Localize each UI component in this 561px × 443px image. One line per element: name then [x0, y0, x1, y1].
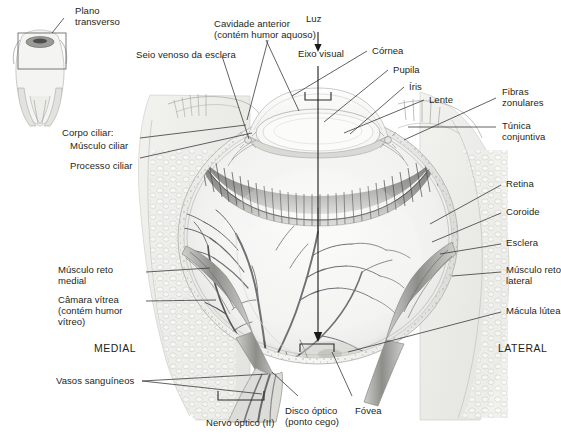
label-musculo-reto-lateral: Músculo reto lateral — [506, 265, 561, 287]
label-medial: MEDIAL — [94, 343, 136, 354]
visual-axis — [314, 32, 322, 342]
eye-anatomy-figure: Plano transverso Seio venoso da esclera … — [0, 0, 561, 443]
label-pupila: Pupila — [393, 65, 420, 76]
conjunctiva-fold-medial — [168, 94, 262, 118]
label-lente: Lente — [429, 95, 453, 106]
vitreous-chamber — [214, 170, 422, 364]
leader-lines — [52, 18, 501, 396]
label-eixo-visual: Eixo visual — [298, 49, 344, 60]
label-musculo-reto-medial: Músculo reto medial — [58, 265, 113, 287]
label-iris: Íris — [409, 82, 422, 93]
eyeball-globe — [178, 112, 458, 364]
label-seio-venoso-da-esclera: Seio venoso da esclera — [136, 50, 236, 61]
zonular-fibers — [228, 140, 408, 166]
medial-rectus-muscle — [182, 246, 280, 392]
brackets — [218, 92, 334, 400]
label-musculo-ciliar: Músculo ciliar — [70, 141, 128, 152]
ciliary-body-processes — [196, 150, 440, 226]
scleral-venous-sinus — [240, 132, 396, 148]
label-coroide: Coroide — [506, 207, 540, 218]
anterior-segment — [248, 88, 388, 158]
label-fibras-zonulares: Fibras zonulares — [502, 87, 544, 109]
label-nervo-optico: Nervo óptico (II) — [206, 418, 274, 429]
label-lateral: LATERAL — [498, 343, 547, 354]
retinal-blood-vessels — [168, 208, 410, 414]
label-macula-lutea: Mácula lútea — [506, 306, 560, 317]
inset-superior-view — [13, 30, 67, 126]
label-cavidade-anterior: Cavidade anterior (contém humor aquoso) — [214, 19, 316, 41]
optic-nerve — [228, 368, 283, 422]
label-camara-vitrea: Câmara vítrea (contém humor vítreo) — [58, 295, 123, 327]
label-vasos-sanguineos: Vasos sanguíneos — [56, 376, 134, 387]
label-fovea: Fóvea — [355, 406, 382, 417]
label-processo-ciliar: Processo ciliar — [70, 161, 133, 172]
label-disco-optico: Disco óptico (ponto cego) — [285, 406, 339, 428]
label-corpo-ciliar: Corpo ciliar: — [62, 128, 113, 139]
label-plano-transverso: Plano transverso — [75, 6, 120, 28]
label-retina: Retina — [506, 179, 534, 190]
lateral-rectus-muscle — [364, 242, 456, 406]
label-luz: Luz — [306, 14, 321, 25]
label-cornea: Córnea — [372, 46, 403, 57]
label-tunica-conjuntiva: Túnica conjuntiva — [502, 121, 545, 143]
macula-lutea — [300, 341, 360, 363]
orbital-tissue — [138, 92, 509, 420]
label-esclera: Esclera — [506, 238, 538, 249]
